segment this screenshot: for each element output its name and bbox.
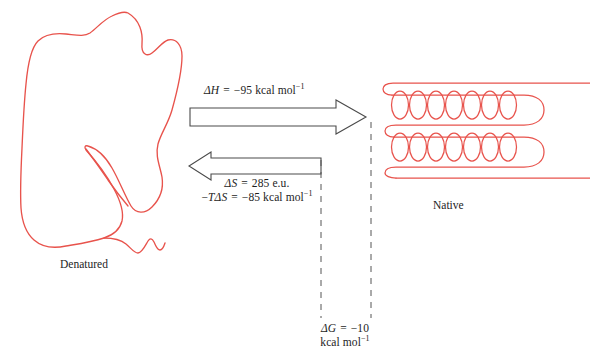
entropy-units: e.u.: [272, 177, 289, 189]
enthalpy-units: kcal mol: [255, 84, 296, 96]
entropy-term-value: −85: [242, 191, 260, 203]
enthalpy-value: −95: [234, 84, 252, 96]
enthalpy-units-exponent: −1: [296, 82, 305, 91]
denaturation-to-native-arrow: [190, 100, 366, 134]
free-energy-units-row: kcal mol−1: [305, 336, 385, 350]
free-energy-value: −10: [351, 322, 369, 334]
entropy-equation-block: ΔS=285 e.u. −TΔS=−85 kcal mol−1: [182, 177, 332, 204]
entropy-term-equation: −TΔS=−85 kcal mol−1: [182, 191, 332, 205]
free-energy-equation-block: ΔG=−10 kcal mol−1: [305, 322, 385, 349]
denatured-label: Denatured: [60, 258, 108, 272]
entropy-term-units: kcal mol: [263, 191, 304, 203]
entropy-value: 285: [252, 177, 270, 189]
enthalpy-equation: ΔH=−95 kcal mol−1: [204, 84, 305, 98]
free-energy-equation: ΔG=−10: [305, 322, 385, 336]
entropy-term-units-exponent: −1: [304, 189, 313, 198]
free-energy-units-exponent: −1: [361, 334, 370, 343]
native-label: Native: [433, 199, 464, 213]
free-energy-units: kcal mol: [320, 336, 361, 348]
native-to-denatured-arrow: [189, 152, 321, 180]
thermodynamics-diagram: ΔH=−95 kcal mol−1 ΔS=285 e.u. −TΔS=−85 k…: [0, 0, 590, 358]
